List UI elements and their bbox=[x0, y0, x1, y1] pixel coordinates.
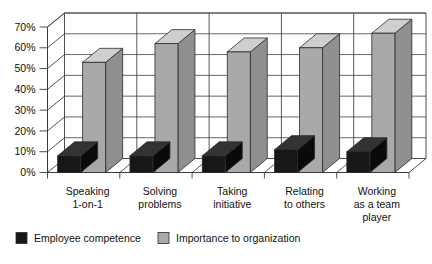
y-axis-tick-label: 70% bbox=[14, 21, 35, 33]
x-axis-category-label: Solving bbox=[143, 185, 178, 197]
x-axis-category-label: to others bbox=[284, 198, 325, 210]
x-axis-category-label: Relating bbox=[285, 185, 324, 197]
gridline-depth-tick bbox=[48, 96, 65, 110]
x-axis-category-label: Working bbox=[358, 185, 396, 197]
bar-front-face bbox=[58, 156, 81, 173]
bar-front-face bbox=[202, 156, 225, 173]
bar-side-face bbox=[323, 34, 340, 173]
bar-side-face bbox=[178, 30, 195, 173]
legend-swatch bbox=[16, 233, 27, 244]
x-axis-category-label: initiative bbox=[213, 198, 251, 210]
legend-label: Importance to organization bbox=[176, 232, 300, 244]
x-axis-category-label: problems bbox=[138, 198, 181, 210]
x-axis-category-label: player bbox=[363, 211, 392, 223]
y-axis-tick-label: 0% bbox=[20, 166, 35, 178]
gridline-depth-tick bbox=[48, 75, 65, 89]
y-axis-tick-label: 60% bbox=[14, 41, 35, 53]
x-axis-category-label: Taking bbox=[217, 185, 248, 197]
y-axis-tick-label: 50% bbox=[14, 62, 35, 74]
bar-side-face bbox=[106, 48, 123, 172]
gridline-depth-tick bbox=[48, 13, 65, 27]
bar-front-face bbox=[347, 152, 370, 173]
bar-chart: 0%10%20%30%40%50%60%70%Speaking1-on-1Sol… bbox=[0, 0, 432, 264]
x-axis-category-label: Speaking bbox=[66, 185, 110, 197]
gridline-depth-tick bbox=[48, 117, 65, 131]
bar-side-face bbox=[395, 19, 412, 172]
gridline-depth-tick bbox=[48, 34, 65, 48]
legend-swatch bbox=[158, 233, 169, 244]
bar-side-face bbox=[250, 38, 267, 173]
y-axis-tick-label: 40% bbox=[14, 83, 35, 95]
gridline-depth-tick bbox=[48, 138, 65, 152]
bar-front-face bbox=[130, 156, 153, 173]
x-axis-category-label: as a team bbox=[354, 198, 400, 210]
gridline-depth-tick bbox=[48, 55, 65, 69]
y-axis-tick-label: 30% bbox=[14, 104, 35, 116]
x-axis-category-label: 1-on-1 bbox=[72, 198, 103, 210]
bar-front-face bbox=[275, 150, 298, 173]
chart-canvas: 0%10%20%30%40%50%60%70%Speaking1-on-1Sol… bbox=[0, 0, 432, 264]
legend-label: Employee competence bbox=[34, 232, 141, 244]
y-axis-tick-label: 20% bbox=[14, 125, 35, 137]
y-axis-tick-label: 10% bbox=[14, 145, 35, 157]
